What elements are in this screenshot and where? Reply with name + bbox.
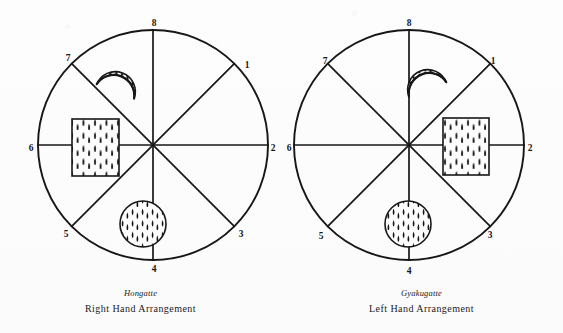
position-label-5: 5	[319, 231, 324, 241]
position-label-2: 2	[528, 143, 533, 153]
position-label-6: 6	[29, 143, 34, 153]
caption-english-gyakugatte: Left Hand Arrangement	[281, 303, 562, 314]
position-label-2: 2	[271, 143, 276, 153]
figure-panel-gyakugatte: 1 2 3 4 5 6 7 8 Gyakugatte Left Hand Arr…	[281, 0, 562, 333]
position-label-5: 5	[64, 229, 69, 239]
caption-english-hongatte: Right Hand Arrangement	[0, 303, 281, 314]
hatched-rectangle-board	[443, 118, 489, 175]
position-label-6: 6	[287, 143, 292, 153]
crescent-ladle	[408, 70, 447, 97]
caption-japanese-gyakugatte: Gyakugatte	[281, 288, 562, 298]
position-label-4: 4	[152, 264, 157, 274]
position-label-4: 4	[407, 266, 412, 276]
hatched-circle-brazier	[385, 201, 431, 247]
diagram-gyakugatte: 1 2 3 4 5 6 7 8	[281, 0, 562, 290]
hatched-circle-brazier	[120, 201, 166, 247]
position-label-3: 3	[488, 230, 493, 240]
caption-japanese-hongatte: Hongatte	[0, 288, 281, 298]
position-label-1: 1	[245, 60, 250, 70]
position-label-3: 3	[239, 229, 244, 239]
position-label-8: 8	[407, 18, 412, 28]
position-label-7: 7	[66, 53, 71, 63]
hatched-rectangle-board	[72, 119, 119, 176]
position-label-8: 8	[152, 18, 157, 28]
position-label-7: 7	[323, 56, 328, 66]
position-label-1: 1	[491, 56, 496, 66]
diagram-hongatte: 1 2 3 4 5 6 7 8	[0, 0, 281, 290]
figure-panel-hongatte: 1 2 3 4 5 6 7 8 Hongatte Right Hand Arra…	[0, 0, 281, 333]
